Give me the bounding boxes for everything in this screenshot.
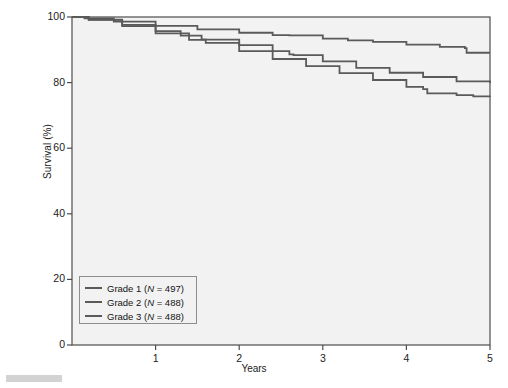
legend-swatch-grade-1	[85, 287, 102, 289]
legend-label-grade-2: Grade 2 (N = 488)	[107, 297, 184, 308]
caption-marker-bar	[6, 375, 62, 382]
legend-swatch-grade-2	[85, 301, 102, 303]
x-tick-label: 5	[480, 353, 500, 364]
x-tick-label: 3	[313, 353, 333, 364]
legend-item-grade-1: Grade 1 (N = 497)	[80, 281, 196, 295]
x-tick-label: 1	[146, 353, 166, 364]
plot-canvas	[0, 0, 508, 388]
legend-swatch-grade-3	[85, 315, 102, 317]
x-tick-label: 2	[229, 353, 249, 364]
y-tick-label: 80	[31, 77, 65, 88]
legend-item-grade-2: Grade 2 (N = 488)	[80, 295, 196, 309]
chart-legend: Grade 1 (N = 497) Grade 2 (N = 488) Grad…	[79, 276, 197, 324]
y-tick-label: 100	[31, 11, 65, 22]
survival-chart-figure: Survival (%) Years 020406080100 12345 Gr…	[0, 0, 508, 388]
y-tick-label: 60	[31, 142, 65, 153]
x-axis-title: Years	[0, 363, 508, 374]
y-tick-label: 40	[31, 208, 65, 219]
legend-label-grade-3: Grade 3 (N = 488)	[107, 311, 184, 322]
y-tick-label: 20	[31, 273, 65, 284]
legend-item-grade-3: Grade 3 (N = 488)	[80, 309, 196, 323]
x-tick-label: 4	[396, 353, 416, 364]
y-tick-label: 0	[31, 339, 65, 350]
legend-label-grade-1: Grade 1 (N = 497)	[107, 283, 184, 294]
